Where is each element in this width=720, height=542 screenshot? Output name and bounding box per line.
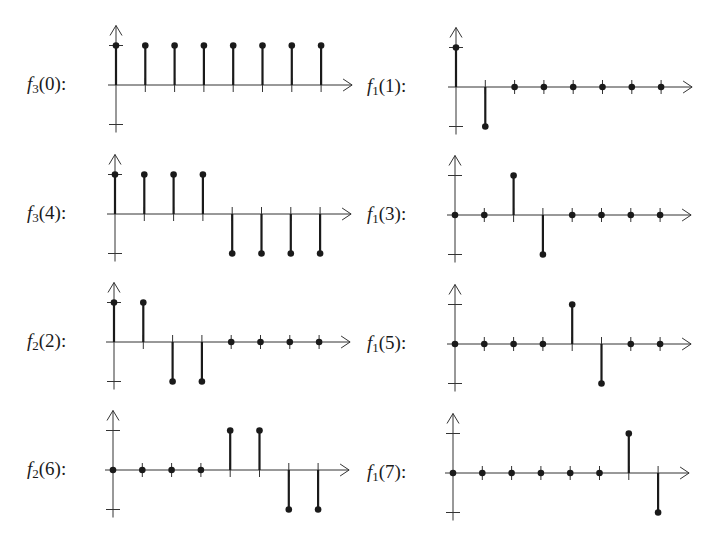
stem-plots-svg xyxy=(0,0,720,542)
stem-marker-dot xyxy=(317,250,324,257)
stem-marker-dot xyxy=(567,470,574,477)
stem-marker-dot xyxy=(540,341,547,348)
stem-marker-dot xyxy=(228,339,235,346)
stem-marker-dot xyxy=(598,380,605,387)
stem-marker-dot xyxy=(229,250,236,257)
stem-marker-dot xyxy=(230,42,237,49)
stem-marker-dot xyxy=(316,339,323,346)
stem-marker-dot xyxy=(287,339,294,346)
function-argument: (7): xyxy=(379,461,406,482)
stem-marker-dot xyxy=(110,467,117,474)
panel-label: f1(5): xyxy=(367,333,406,354)
stem-marker-dot xyxy=(258,250,265,257)
stem-marker-dot xyxy=(569,301,576,308)
stem-plot-f2_2 xyxy=(106,283,350,390)
function-argument: (5): xyxy=(379,332,406,353)
function-argument: (0): xyxy=(39,73,66,94)
stem-marker-dot xyxy=(510,172,517,179)
stem-marker-dot xyxy=(288,250,295,257)
stem-marker-dot xyxy=(569,212,576,219)
stem-plot-f1_7 xyxy=(445,414,689,521)
stem-marker-dot xyxy=(508,470,515,477)
stem-plot-f2_6 xyxy=(105,411,349,518)
stem-marker-dot xyxy=(168,467,175,474)
stem-marker-dot xyxy=(452,341,459,348)
stem-marker-dot xyxy=(227,427,234,434)
stem-marker-dot xyxy=(453,44,460,51)
stem-marker-dot xyxy=(112,171,119,178)
stem-marker-dot xyxy=(257,339,264,346)
stem-marker-dot xyxy=(510,341,517,348)
function-argument: (4): xyxy=(39,202,66,223)
stem-marker-dot xyxy=(289,42,296,49)
stem-marker-dot xyxy=(315,506,322,513)
stem-marker-dot xyxy=(629,84,636,91)
stem-marker-dot xyxy=(452,212,459,219)
function-argument: (3): xyxy=(379,203,406,224)
stem-marker-dot xyxy=(598,212,605,219)
stem-marker-dot xyxy=(170,171,177,178)
stem-marker-dot xyxy=(628,341,635,348)
stem-marker-dot xyxy=(481,212,488,219)
stem-plot-f3_4 xyxy=(107,155,351,262)
stem-plot-f3_0 xyxy=(108,26,352,133)
stem-marker-dot xyxy=(570,84,577,91)
stem-marker-dot xyxy=(142,42,149,49)
stem-marker-dot xyxy=(626,430,633,437)
stem-marker-dot xyxy=(199,378,206,385)
stem-marker-dot xyxy=(139,467,146,474)
stem-marker-dot xyxy=(540,251,547,258)
panel-label: f1(1): xyxy=(367,76,406,97)
stem-marker-dot xyxy=(200,171,207,178)
stem-marker-dot xyxy=(657,212,664,219)
stem-marker-dot xyxy=(481,341,488,348)
stem-marker-dot xyxy=(658,84,665,91)
function-argument: (1): xyxy=(379,75,406,96)
panel-label: f3(4): xyxy=(27,203,66,224)
panel-label: f3(0): xyxy=(27,74,66,95)
stem-marker-dot xyxy=(596,470,603,477)
stem-marker-dot xyxy=(198,467,205,474)
stem-marker-dot xyxy=(286,506,293,513)
stem-marker-dot xyxy=(256,427,263,434)
stem-marker-dot xyxy=(140,299,147,306)
stem-marker-dot xyxy=(655,509,662,516)
stem-marker-dot xyxy=(113,42,120,49)
stem-marker-dot xyxy=(450,470,457,477)
wavelet-basis-diagram: f3(0): f1(1): f3(4): f1(3): f2(2): f1(5)… xyxy=(0,0,720,542)
stem-marker-dot xyxy=(479,470,486,477)
panel-label: f2(6): xyxy=(27,459,66,480)
stem-marker-dot xyxy=(201,42,208,49)
stem-marker-dot xyxy=(169,378,176,385)
panel-label: f1(3): xyxy=(367,204,406,225)
stem-marker-dot xyxy=(482,123,489,130)
stem-marker-dot xyxy=(511,84,518,91)
stem-marker-dot xyxy=(141,171,148,178)
stem-marker-dot xyxy=(541,84,548,91)
stem-marker-dot xyxy=(628,212,635,219)
stem-marker-dot xyxy=(599,84,606,91)
stem-marker-dot xyxy=(111,299,118,306)
panel-label: f1(7): xyxy=(367,462,406,483)
stem-marker-dot xyxy=(657,341,664,348)
stem-marker-dot xyxy=(318,42,325,49)
stem-plot-f1_1 xyxy=(448,28,692,135)
panel-label: f2(2): xyxy=(27,331,66,352)
stem-marker-dot xyxy=(259,42,266,49)
stem-marker-dot xyxy=(171,42,178,49)
stem-plot-f1_3 xyxy=(447,156,691,263)
function-argument: (2): xyxy=(39,330,66,351)
stem-marker-dot xyxy=(538,470,545,477)
stem-plot-f1_5 xyxy=(447,285,691,392)
function-argument: (6): xyxy=(39,458,66,479)
